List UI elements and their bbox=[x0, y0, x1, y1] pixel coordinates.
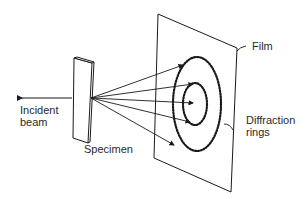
inner-diffraction-ring bbox=[183, 83, 207, 125]
specimen-label: Specimen bbox=[84, 143, 133, 155]
specimen-plate bbox=[73, 57, 94, 143]
rings-leader bbox=[224, 124, 233, 130]
outer-diffraction-ring bbox=[173, 57, 221, 151]
diffraction-rings-label: Diffraction rings bbox=[246, 114, 295, 138]
film-label: Film bbox=[252, 40, 273, 52]
incident-beam-label: Incident beam bbox=[20, 104, 59, 128]
film-plane bbox=[154, 14, 237, 192]
diffraction-diagram bbox=[0, 0, 307, 199]
film-leader bbox=[237, 46, 246, 51]
